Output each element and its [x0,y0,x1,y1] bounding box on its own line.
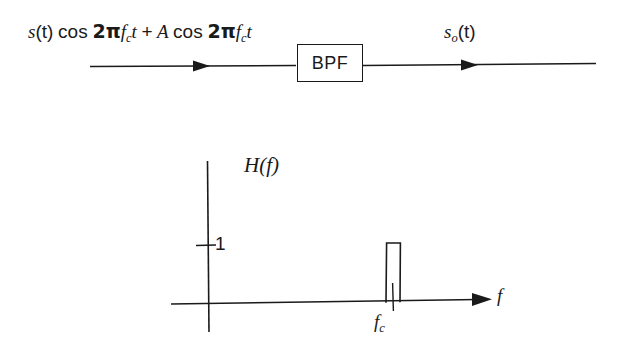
y-tick-mark-1 [196,245,216,246]
figure-canvas: s(t) cos 2πfct + A cos 2πfct so(t) BPF H… [0,0,626,363]
output-signal-line [363,64,596,66]
output-direction-arrowhead [461,60,478,71]
x-tick-mark-fc [393,283,394,311]
diagram-vector-layer [0,0,626,363]
frequency-horizontal-axis [171,300,478,305]
hf-vertical-axis [208,161,210,332]
input-direction-arrowhead [193,61,210,72]
frequency-axis-arrowhead [472,293,492,306]
